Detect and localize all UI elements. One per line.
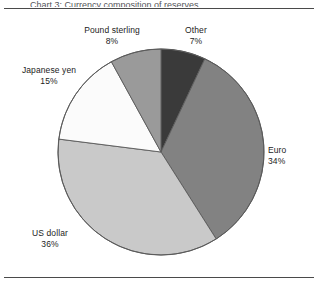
pie-label-us-dollar: US dollar 36% [10, 228, 90, 249]
pie-label-other-name: Other [166, 25, 226, 36]
cropped-title-text: Chart 3: Currency composition of reserve… [30, 0, 280, 7]
pie-label-pound-sterling-value: 8% [64, 36, 160, 47]
chart-figure: Chart 3: Currency composition of reserve… [0, 0, 318, 287]
pie-chart-plot-area: Pound sterling 8% Other 7% Japanese yen … [0, 9, 318, 276]
pie-label-euro: Euro 34% [268, 145, 314, 166]
pie-label-japanese-yen: Japanese yen 15% [5, 65, 93, 86]
pie-label-us-dollar-value: 36% [10, 239, 90, 250]
pie-label-euro-name: Euro [268, 145, 314, 156]
pie-label-pound-sterling: Pound sterling 8% [64, 25, 160, 46]
pie-label-japanese-yen-name: Japanese yen [5, 65, 93, 76]
pie-label-us-dollar-name: US dollar [10, 228, 90, 239]
pie-label-japanese-yen-value: 15% [5, 76, 93, 87]
pie-label-other: Other 7% [166, 25, 226, 46]
pie-label-euro-value: 34% [268, 156, 314, 167]
bottom-divider-rule [4, 277, 314, 278]
pie-label-other-value: 7% [166, 36, 226, 47]
pie-label-pound-sterling-name: Pound sterling [64, 25, 160, 36]
